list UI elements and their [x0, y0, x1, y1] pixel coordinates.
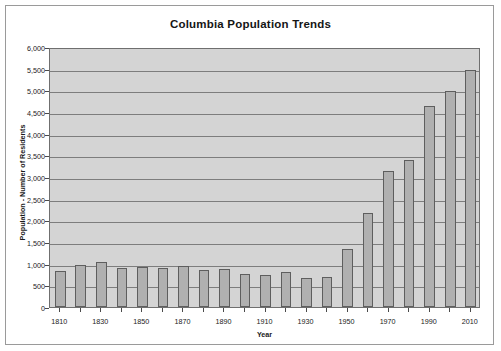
bar: [240, 274, 251, 307]
x-tick-label: 1990: [409, 317, 449, 326]
x-tick-mark: [408, 308, 409, 312]
x-tick-mark: [244, 308, 245, 312]
x-tick-label: 1930: [286, 317, 326, 326]
x-tick-mark: [223, 308, 224, 312]
bar: [383, 171, 394, 307]
x-tick-label: 1830: [80, 317, 120, 326]
bar: [322, 277, 333, 307]
x-tick-label: 2010: [450, 317, 490, 326]
bar: [424, 106, 435, 308]
x-tick-label: 1950: [327, 317, 367, 326]
x-tick-mark: [182, 308, 183, 312]
chart-frame: Columbia Population Trends Population - …: [5, 5, 494, 345]
x-axis-tick-labels: 1810183018501870189019101930195019701990…: [49, 317, 480, 331]
x-tick-mark: [347, 308, 348, 312]
plot-area: [49, 48, 480, 308]
bar: [55, 271, 66, 307]
x-tick-mark: [80, 308, 81, 312]
bar: [137, 267, 148, 307]
bar: [342, 249, 353, 308]
x-tick-mark: [429, 308, 430, 312]
bar: [199, 270, 210, 307]
y-axis-tick-marks: [6, 48, 50, 308]
x-tick-mark: [367, 308, 368, 312]
x-tick-label: 1910: [245, 317, 285, 326]
x-tick-mark: [59, 308, 60, 312]
x-tick-label: 1890: [203, 317, 243, 326]
bar: [465, 70, 476, 307]
x-tick-label: 1870: [162, 317, 202, 326]
bar: [363, 213, 374, 307]
x-tick-mark: [141, 308, 142, 312]
bar: [75, 265, 86, 307]
bar: [260, 275, 271, 307]
x-axis-title: Year: [49, 330, 480, 339]
bar: [445, 91, 456, 307]
x-axis-tick-marks: [49, 308, 480, 314]
x-tick-mark: [203, 308, 204, 312]
bar: [178, 266, 189, 307]
x-tick-mark: [306, 308, 307, 312]
x-tick-label: 1850: [121, 317, 161, 326]
bar: [158, 268, 169, 307]
x-tick-label: 1970: [368, 317, 408, 326]
x-tick-mark: [100, 308, 101, 312]
x-tick-mark: [121, 308, 122, 312]
bar: [219, 269, 230, 307]
bar: [117, 268, 128, 307]
bar: [404, 160, 415, 307]
bar: [96, 262, 107, 307]
x-tick-mark: [285, 308, 286, 312]
x-tick-label: 1810: [39, 317, 79, 326]
x-tick-mark: [388, 308, 389, 312]
chart-title: Columbia Population Trends: [6, 18, 495, 30]
x-tick-mark: [326, 308, 327, 312]
bar-series: [50, 49, 479, 307]
x-tick-mark: [162, 308, 163, 312]
x-tick-mark: [449, 308, 450, 312]
bar: [281, 272, 292, 307]
x-tick-mark: [265, 308, 266, 312]
bar: [301, 278, 312, 307]
x-tick-mark: [470, 308, 471, 312]
